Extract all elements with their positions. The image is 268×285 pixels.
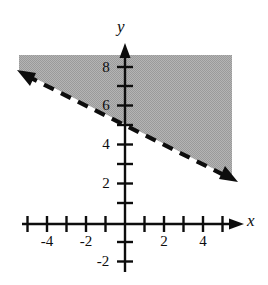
y-axis-label: y	[117, 18, 125, 35]
x-axis-label: x	[247, 212, 255, 229]
x-tick-label-neg4: -4	[37, 234, 57, 249]
y-tick-label-neg2: -2	[93, 254, 113, 269]
y-tick-label-8: 8	[99, 60, 113, 75]
inequality-graph-figure: y x -4 -2 2 4 8 6 4 2 -2	[0, 0, 268, 285]
y-tick-label-2: 2	[99, 176, 113, 191]
y-tick-label-4: 4	[99, 137, 113, 152]
x-axis	[22, 216, 244, 232]
x-tick-label-neg2: -2	[76, 234, 96, 249]
y-tick-label-6: 6	[99, 98, 113, 113]
x-tick-label-4: 4	[196, 234, 210, 249]
x-tick-label-2: 2	[157, 234, 171, 249]
